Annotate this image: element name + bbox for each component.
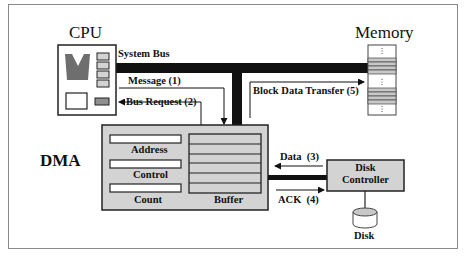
- block-transfer-label: Block Data Transfer (5): [253, 85, 359, 96]
- dma-count-label: Count: [134, 194, 162, 205]
- dma-address-register: [110, 135, 181, 143]
- dma-control-label: Control: [133, 169, 168, 180]
- data-label: Data (3): [280, 151, 319, 162]
- cpu-register-3: [97, 71, 109, 78]
- cpu-register-2: [97, 62, 109, 69]
- dma-title: DMA: [40, 151, 81, 171]
- dma-buffer: [189, 134, 261, 193]
- disk-bus: [268, 175, 328, 180]
- disk-label: Disk: [354, 230, 374, 241]
- cpu-register-4: [97, 80, 109, 87]
- dma-buffer-label: Buffer: [214, 194, 243, 205]
- system-bus-drop: [232, 63, 242, 126]
- disk-icon: [353, 208, 377, 228]
- bus-request-label: Bus Request (2): [126, 96, 197, 107]
- disk-controller-label-line2: Controller: [327, 174, 404, 185]
- dma-address-label: Address: [131, 144, 168, 155]
- cpu-port: [95, 98, 109, 105]
- memory-block: [368, 45, 396, 115]
- cpu-title: CPU: [69, 23, 102, 43]
- ack-label: ACK (4): [278, 194, 319, 205]
- dma-count-register: [110, 184, 181, 192]
- cpu-register-1: [97, 53, 109, 60]
- dma-control-register: [110, 160, 181, 168]
- memory-title: Memory: [355, 23, 414, 43]
- message-label: Message (1): [128, 75, 181, 86]
- cpu-cache: [66, 93, 87, 109]
- disk-controller-label-line1: Disk: [327, 162, 404, 173]
- system-bus-label: System Bus: [118, 48, 170, 59]
